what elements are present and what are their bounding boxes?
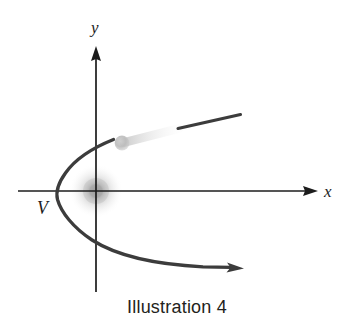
- x-axis: [18, 186, 318, 196]
- figure-caption: Illustration 4: [0, 297, 354, 318]
- x-axis-label: x: [323, 182, 332, 201]
- illustration-figure: x y V Illustration 4: [0, 0, 354, 325]
- chord-segment: [178, 115, 241, 129]
- moving-ball-marker: [115, 136, 130, 151]
- motion-trail: [124, 129, 179, 143]
- vertex-label: V: [37, 198, 50, 218]
- y-axis-label: y: [89, 18, 99, 37]
- parabola-diagram: x y V: [0, 0, 354, 325]
